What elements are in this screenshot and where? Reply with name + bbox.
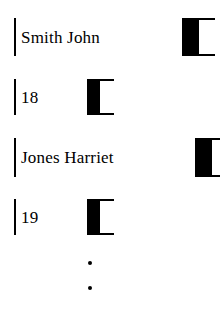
node-data-label: Smith John bbox=[16, 29, 100, 46]
node-data-cell: Smith John bbox=[14, 18, 184, 56]
node-pointer-cell bbox=[89, 79, 100, 115]
node-data-cell: Jones Harriet bbox=[14, 138, 197, 177]
node-data-cell: 18 bbox=[14, 79, 89, 115]
node-data-label: 19 bbox=[16, 209, 38, 226]
node-data-label: Jones Harriet bbox=[16, 149, 114, 166]
ellipsis-dot bbox=[88, 286, 92, 290]
node-pointer-cell bbox=[197, 138, 212, 177]
record-node: Smith John bbox=[14, 18, 215, 56]
record-node: 19 bbox=[14, 199, 114, 235]
ellipsis-dot bbox=[88, 261, 92, 265]
node-data-cell: 19 bbox=[14, 199, 89, 235]
record-node-diagram: Smith John18Jones Harriet19 bbox=[0, 0, 223, 317]
record-node: Jones Harriet bbox=[14, 138, 220, 177]
record-node: 18 bbox=[14, 79, 114, 115]
node-data-label: 18 bbox=[16, 89, 38, 106]
node-pointer-cell bbox=[89, 199, 100, 235]
node-pointer-cell bbox=[184, 18, 199, 56]
